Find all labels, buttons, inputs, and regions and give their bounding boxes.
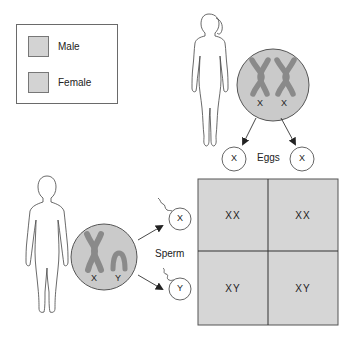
punnett-square [198, 179, 338, 325]
egg-label-right: X [299, 154, 305, 163]
legend-swatch-female [28, 72, 49, 93]
sperm-x-icon [158, 198, 191, 230]
sperm-label-x: X [177, 214, 183, 223]
legend-swatch-male [28, 36, 49, 57]
arrow-to-egg-left [243, 118, 256, 144]
punnett-cell-xy-1: XY [198, 283, 268, 294]
arrow-to-egg-right [281, 118, 295, 144]
sperm-label: Sperm [155, 249, 184, 259]
female-chromosome-label-2: X [281, 99, 287, 108]
female-chromosome-label-1: X [257, 99, 263, 108]
male-chromosome-circle [71, 224, 137, 290]
punnett-cell-xx-2: XX [268, 210, 338, 221]
legend-label-female: Female [58, 78, 91, 88]
punnett-cell-xx-1: XX [198, 210, 268, 221]
legend: Male Female [16, 24, 118, 104]
male-chromosome-label-x: X [91, 274, 97, 283]
female-figure-icon [192, 14, 228, 146]
legend-label-male: Male [58, 42, 80, 52]
male-chromosome-label-y: Y [115, 274, 121, 283]
sperm-label-y: Y [177, 284, 183, 293]
punnett-cell-xy-2: XY [268, 283, 338, 294]
male-figure-icon [26, 176, 68, 312]
arrow-to-sperm-x [138, 226, 162, 240]
egg-label-left: X [231, 154, 237, 163]
female-chromosome-circle [237, 49, 309, 121]
arrow-to-sperm-y [138, 275, 162, 289]
eggs-label: Eggs [257, 153, 280, 163]
